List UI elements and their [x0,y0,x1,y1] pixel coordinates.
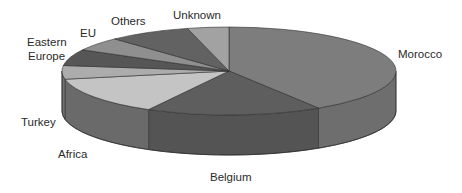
pie-chart-3d: Morocco Belgium Africa Turkey Eastern Eu… [0,0,462,193]
label-unknown: Unknown [173,9,221,21]
label-eu: EU [80,27,96,39]
label-morocco: Morocco [398,48,442,60]
label-others: Others [111,15,146,27]
label-eastern-europe-line1: Eastern [27,36,67,48]
label-belgium: Belgium [210,171,252,183]
label-turkey: Turkey [21,116,56,128]
label-africa: Africa [58,148,88,160]
pie-top-slices [62,27,396,115]
label-eastern-europe-line2: Europe [28,50,65,62]
